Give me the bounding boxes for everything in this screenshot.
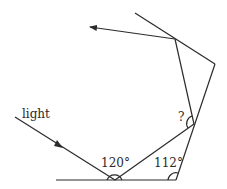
- diagram-canvas: light 120° 112° ?: [0, 0, 227, 189]
- outgoing-light-ray: [90, 27, 175, 39]
- angle-112-label: 112°: [154, 156, 183, 170]
- light-label: light: [22, 107, 50, 121]
- incoming-light-ray: [15, 117, 115, 180]
- reflected-ray-1: [115, 124, 194, 180]
- unknown-angle-label: ?: [178, 110, 184, 124]
- light-direction-arrow-icon: [54, 140, 63, 148]
- angle-120-label: 120°: [101, 156, 130, 170]
